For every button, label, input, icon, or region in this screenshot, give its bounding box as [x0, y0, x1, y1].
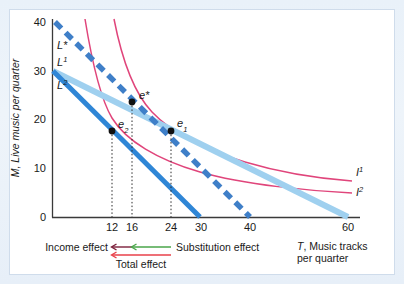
y-tick-30: 30: [34, 65, 46, 77]
substitution-effect-label: Substitution effect: [176, 241, 259, 253]
point-dot-e2: [109, 128, 116, 135]
equilibrium-points-group: e* e2 e1: [109, 89, 188, 135]
point-label-e2: e2: [118, 118, 129, 135]
point-dot-estar: [129, 99, 136, 106]
budget-line-L1: [53, 71, 348, 217]
x-axis-title-group: T, Music tracks per quarter: [297, 240, 368, 264]
x-tick-60: 60: [342, 221, 354, 233]
income-effect-label: Income effect: [45, 241, 108, 253]
point-label-e2-sub: 2: [123, 126, 129, 135]
x-tick-24: 24: [165, 221, 177, 233]
point-label-estar-text: e*: [139, 89, 150, 101]
label-I2: I2: [356, 185, 364, 199]
label-L1: L1: [57, 55, 67, 69]
point-dot-e1: [168, 128, 175, 135]
x-tick-16: 16: [126, 221, 138, 233]
indifference-curve-labels: I1 I2: [356, 165, 364, 199]
y-tick-20: 20: [34, 113, 46, 125]
y-tick-labels: 40 30 20 10 0: [34, 16, 46, 223]
label-L2: L2: [57, 78, 68, 92]
x-tick-40: 40: [244, 221, 256, 233]
y-tick-10: 10: [34, 162, 46, 174]
budget-line-Lstar: [55, 22, 250, 217]
figure-root: 40 30 20 10 0 M, Live music per quarter: [0, 0, 404, 284]
plot-area: 40 30 20 10 0 M, Live music per quarter: [0, 0, 404, 284]
x-axis-title-line2: per quarter: [297, 252, 349, 264]
point-label-estar: e*: [139, 89, 150, 101]
indifference-curve-I1: [114, 19, 352, 181]
label-L2-sup: 2: [62, 78, 68, 87]
y-axis-title: M, Live music per quarter: [9, 58, 21, 177]
label-I2-sup: 2: [358, 185, 364, 194]
label-L-star-text: L*: [57, 39, 68, 51]
x-axis-title-line1: T, Music tracks: [297, 240, 368, 252]
label-I1: I1: [356, 165, 363, 179]
budget-curve-labels: L* L1 L2: [57, 39, 68, 91]
budget-lines-group: [53, 22, 348, 217]
chart-svg: 40 30 20 10 0 M, Live music per quarter: [0, 0, 404, 284]
y-tick-40: 40: [34, 16, 46, 28]
x-tick-labels: 12 16 24 30 40 60: [106, 221, 354, 233]
point-label-e1-sub: 1: [183, 125, 187, 134]
y-tick-0: 0: [40, 211, 46, 223]
effects-legend-group: Income effect Substitution effect Total …: [45, 241, 259, 270]
total-effect-label: Total effect: [116, 258, 167, 270]
x-tick-30: 30: [195, 221, 207, 233]
x-tick-12: 12: [106, 221, 118, 233]
label-I1-sup: 1: [359, 165, 363, 174]
label-L1-sup: 1: [63, 55, 67, 64]
label-L-star: L*: [57, 39, 68, 51]
